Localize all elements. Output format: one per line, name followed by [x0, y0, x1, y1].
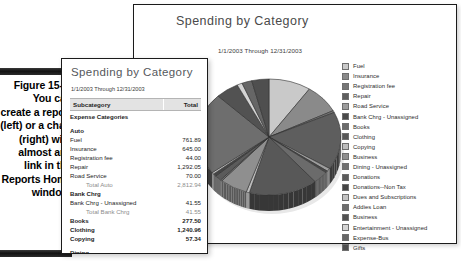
row-value: 44.00	[186, 154, 201, 161]
legend-swatch-icon	[342, 143, 349, 150]
row-value: 1,240.96	[177, 226, 201, 233]
pie-slice-side	[225, 183, 227, 200]
legend-swatch-icon	[342, 73, 349, 80]
legend-item: Donations	[342, 172, 454, 182]
pie-slice-side	[223, 182, 225, 199]
column-divider	[163, 99, 164, 110]
pie-slice-side	[316, 180, 317, 197]
row-label: Auto	[70, 127, 84, 134]
legend-item-label: Gifts	[353, 245, 365, 251]
row-value: 645.00	[182, 145, 201, 152]
legend-swatch-icon	[342, 194, 349, 201]
pie-slice-side	[227, 184, 229, 201]
legend-swatch-icon	[342, 184, 349, 191]
report-title: Spending by Category	[71, 66, 193, 78]
row-value: 70.00	[186, 172, 201, 179]
pie-slice-side	[318, 179, 319, 196]
table-row[interactable]: Bank Chrg - Unassigned41.55	[70, 199, 201, 208]
table-row[interactable]: Books277.50	[70, 217, 201, 226]
pie-slice-side	[244, 191, 246, 208]
legend-swatch-icon	[342, 234, 349, 241]
pie-slice-side	[317, 180, 318, 197]
pie-slice-side	[324, 174, 325, 191]
legend-swatch-icon	[342, 174, 349, 181]
row-label: Dining	[70, 249, 89, 254]
legend-swatch-icon	[342, 153, 349, 160]
row-label: Road Service	[70, 172, 107, 179]
pie-slice-side	[230, 186, 232, 203]
pie-slice-side	[311, 182, 315, 200]
legend-item-label: Insurance	[353, 73, 379, 79]
pie-slice-side	[319, 178, 320, 195]
pie-slice-side	[237, 189, 239, 206]
legend-item: Donations--Non Tax	[342, 182, 454, 192]
pie-slice-side	[303, 186, 307, 204]
legend-swatch-icon	[342, 163, 349, 170]
pie-chart[interactable]	[189, 59, 349, 227]
table-row[interactable]: Dining	[70, 249, 201, 254]
row-label: Bank Chrg	[70, 190, 101, 197]
legend-item: Insurance	[342, 71, 454, 81]
table-row[interactable]: Expense Categories	[70, 113, 201, 122]
row-value: 2,812.94	[177, 181, 201, 188]
legend-item: Business	[342, 212, 454, 222]
table-row[interactable]: Registration fee44.00	[70, 154, 201, 163]
pie-slice-side	[321, 176, 322, 193]
report-table-body: Expense CategoriesAutoFuel761.89Insuranc…	[70, 113, 201, 254]
legend-swatch-icon	[342, 204, 349, 211]
legend-item: Business	[342, 152, 454, 162]
legend-item-label: Clothing	[353, 134, 375, 140]
table-row[interactable]: Clothing1,240.96	[70, 226, 201, 235]
pie-slice-side	[242, 191, 244, 208]
row-label: Expense Categories	[70, 113, 128, 120]
pie-slice-side	[315, 181, 316, 198]
column-header-subcategory: Subcategory	[73, 101, 110, 108]
legend-item-label: Bank Chrg - Unassigned	[353, 114, 418, 120]
legend-swatch-icon	[342, 214, 349, 221]
legend-item: Gifts	[342, 243, 454, 253]
legend-item-label: Business	[353, 214, 377, 220]
pie-slice-side	[232, 187, 234, 204]
pie-slice-side	[320, 177, 321, 194]
legend-item-label: Road Service	[353, 103, 389, 109]
pie-slice-side	[241, 190, 243, 207]
pie-slice-side	[269, 195, 274, 211]
row-label: Registration fee	[70, 154, 113, 161]
table-row[interactable]: Total Bank Chrg41.55	[70, 208, 201, 217]
legend-item: Fuel	[342, 61, 454, 71]
row-label: Fuel	[70, 136, 82, 143]
row-label: Repair	[70, 163, 88, 170]
table-row[interactable]: Repair1,292.05	[70, 163, 201, 172]
legend-item-label: Dining - Unassigned	[353, 164, 407, 170]
table-row[interactable]: Bank Chrg	[70, 190, 201, 199]
row-label: Total Auto	[70, 181, 113, 188]
pie-slice-side	[222, 181, 224, 198]
legend-item-label: Fuel	[353, 63, 365, 69]
legend-swatch-icon	[342, 93, 349, 100]
legend-item: Road Service	[342, 101, 454, 111]
report-window[interactable]: Spending by Category 1/1/2003 Through 12…	[61, 58, 208, 254]
legend-item-label: Books	[353, 124, 370, 130]
legend-swatch-icon	[342, 123, 349, 130]
legend-item: Clothing	[342, 132, 454, 142]
table-row[interactable]: Copying57.34	[70, 235, 201, 244]
legend-swatch-icon	[342, 63, 349, 70]
legend-item: Expense-Bus	[342, 233, 454, 243]
legend-item: Repair	[342, 91, 454, 101]
table-row[interactable]: Total Auto2,812.94	[70, 181, 201, 190]
legend-swatch-icon	[342, 103, 349, 110]
pie-slice-side	[249, 193, 254, 210]
row-label: Copying	[70, 235, 94, 242]
legend-swatch-icon	[342, 83, 349, 90]
table-row[interactable]: Auto	[70, 127, 201, 136]
pie-slice-side	[323, 175, 324, 192]
legend-swatch-icon	[342, 244, 349, 251]
pie-slice-side	[322, 175, 323, 192]
table-row[interactable]: Road Service70.00	[70, 172, 201, 181]
table-row[interactable]: Fuel761.89	[70, 136, 201, 145]
table-row[interactable]: Insurance645.00	[70, 145, 201, 154]
report-table-header: Subcategory Total	[70, 98, 201, 111]
row-value: 761.89	[182, 136, 201, 143]
pie-slice-side	[228, 185, 230, 202]
legend-item: Entertainment - Unassigned	[342, 223, 454, 233]
